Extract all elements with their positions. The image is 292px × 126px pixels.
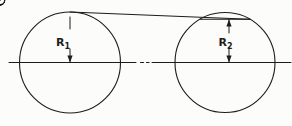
pulley-bolt-circle-diagram: R1R2: [0, 0, 292, 126]
drawing-sheet: R1R2: [0, 0, 292, 126]
